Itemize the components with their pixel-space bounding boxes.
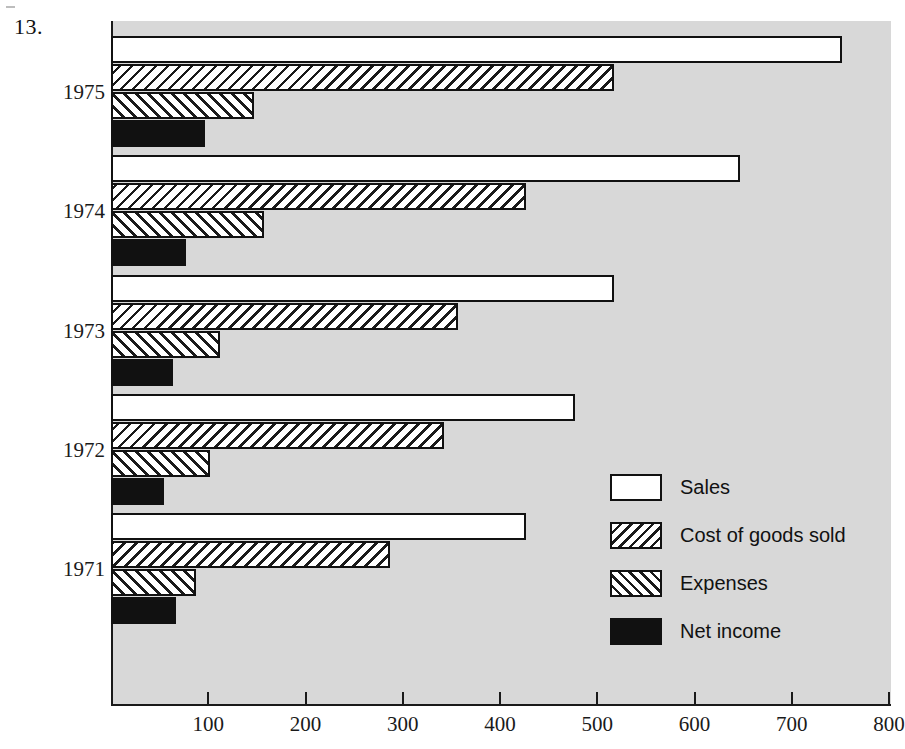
legend-item-sales: Sales: [610, 468, 890, 506]
legend-label: Cost of goods sold: [680, 524, 846, 547]
bar-1971-cost-of-goods-sold: [111, 541, 390, 568]
x-tick-800: [888, 692, 890, 704]
legend-swatch-expenses: [610, 570, 662, 597]
figure-number: 13.: [14, 14, 43, 40]
x-tick-label-700: 700: [776, 712, 808, 737]
bar-1975-cost-of-goods-sold: [111, 64, 614, 91]
legend-swatch-cogs: [610, 522, 662, 549]
year-label-1973: 1973: [63, 319, 105, 344]
legend-swatch-netincome: [610, 618, 662, 645]
legend-item-expenses: Expenses: [610, 564, 890, 602]
x-tick-label-100: 100: [193, 712, 225, 737]
bar-1974-net-income: [111, 239, 186, 266]
bar-1973-sales: [111, 275, 614, 302]
bar-1972-net-income: [111, 478, 164, 505]
bar-1971-expenses: [111, 569, 196, 596]
bar-1974-sales: [111, 155, 740, 182]
x-tick-200: [305, 692, 307, 704]
page-speck: [6, 6, 15, 8]
year-label-1974: 1974: [63, 199, 105, 224]
x-axis-line: [111, 704, 891, 706]
bar-1973-expenses: [111, 331, 220, 358]
chart-legend: SalesCost of goods soldExpensesNet incom…: [610, 468, 890, 660]
x-tick-400: [499, 692, 501, 704]
x-tick-700: [791, 692, 793, 704]
year-label-1971: 1971: [63, 557, 105, 582]
legend-label: Expenses: [680, 572, 768, 595]
bar-1974-cost-of-goods-sold: [111, 183, 526, 210]
legend-item-cost-of-goods-sold: Cost of goods sold: [610, 516, 890, 554]
bar-1975-net-income: [111, 120, 205, 147]
x-tick-300: [402, 692, 404, 704]
x-tick-100: [207, 692, 209, 704]
x-tick-label-400: 400: [484, 712, 516, 737]
figure-container: 13. 19751974197319721971 100200300400500…: [0, 0, 905, 749]
x-tick-600: [694, 692, 696, 704]
x-tick-label-500: 500: [582, 712, 614, 737]
bar-1973-net-income: [111, 359, 173, 386]
bar-1972-expenses: [111, 450, 210, 477]
bar-1975-expenses: [111, 92, 254, 119]
legend-label: Sales: [680, 476, 730, 499]
bar-1971-sales: [111, 513, 526, 540]
legend-item-net-income: Net income: [610, 612, 890, 650]
x-tick-label-200: 200: [290, 712, 322, 737]
x-tick-label-300: 300: [387, 712, 419, 737]
year-label-1972: 1972: [63, 438, 105, 463]
bar-1971-net-income: [111, 597, 176, 624]
bar-1972-cost-of-goods-sold: [111, 422, 444, 449]
legend-swatch-sales: [610, 474, 662, 501]
legend-label: Net income: [680, 620, 781, 643]
year-label-1975: 1975: [63, 80, 105, 105]
bar-1973-cost-of-goods-sold: [111, 303, 458, 330]
bar-1974-expenses: [111, 211, 264, 238]
x-tick-500: [596, 692, 598, 704]
bar-1975-sales: [111, 36, 842, 63]
x-tick-label-600: 600: [679, 712, 711, 737]
x-tick-label-800: 800: [873, 712, 905, 737]
bar-1972-sales: [111, 394, 575, 421]
